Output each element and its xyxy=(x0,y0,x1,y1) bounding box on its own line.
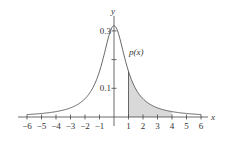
x-tick-label: −3 xyxy=(66,121,76,131)
y-axis-label: y xyxy=(110,6,115,16)
x-tick-label: −2 xyxy=(80,121,90,131)
x-tick-label: 4 xyxy=(170,121,175,131)
x-tick-label: 1 xyxy=(126,121,131,131)
x-tick-label: 6 xyxy=(199,121,204,131)
x-tick-label: 5 xyxy=(184,121,189,131)
x-tick-label: −5 xyxy=(37,121,47,131)
x-tick-label: 2 xyxy=(141,121,146,131)
x-axis-label: x xyxy=(210,112,215,122)
y-tick-label: 0.1 xyxy=(100,83,111,93)
x-tick-label: 3 xyxy=(155,121,160,131)
cauchy-density-chart: −6−5−4−3−2−1123456 0.10.3 x y p(x) xyxy=(0,0,229,141)
x-tick-label: −4 xyxy=(51,121,61,131)
function-label: p(x) xyxy=(128,47,144,57)
x-tick-label: −1 xyxy=(95,121,105,131)
x-tick-label: −6 xyxy=(22,121,32,131)
